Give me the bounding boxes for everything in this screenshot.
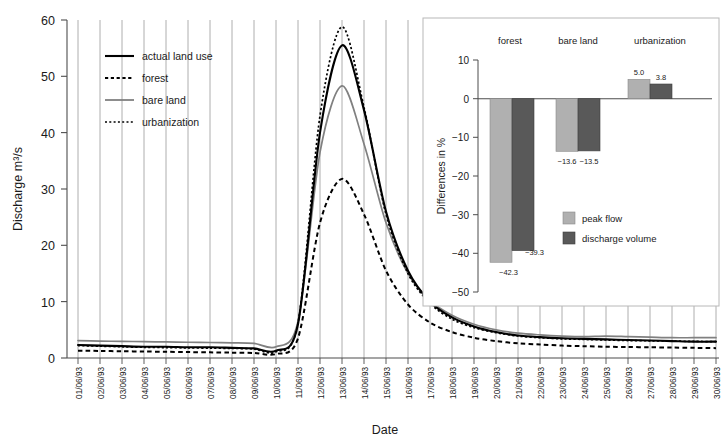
inset-legend-label-discharge-volume: discharge volume <box>582 233 656 244</box>
inset-y-tick-label: −50 <box>452 287 469 298</box>
main-x-tick-label: 01/06/93 <box>75 367 84 399</box>
main-x-tick-label: 12/06/93 <box>317 367 326 399</box>
main-x-tick-label: 22/06/93 <box>537 367 546 399</box>
inset-y-tick-label: −10 <box>452 132 469 143</box>
main-x-tick-label: 08/06/93 <box>229 367 238 399</box>
inset-y-tick-label: 0 <box>463 94 469 105</box>
main-x-tick-label: 21/06/93 <box>515 367 524 399</box>
main-x-tick-label: 25/06/93 <box>603 367 612 399</box>
main-y-tick-label: 30 <box>41 183 55 197</box>
inset-legend-label-peak-flow: peak flow <box>582 213 622 224</box>
bar-urbanization-discharge-volume <box>650 84 672 99</box>
main-x-tick-label: 14/06/93 <box>361 367 370 399</box>
inset-y-tick-label: −40 <box>452 248 469 259</box>
inset-y-axis-title: Differences in % <box>435 138 447 214</box>
bar-value-bare-land-discharge-volume: −13.5 <box>580 157 599 166</box>
main-x-tick-label: 23/06/93 <box>559 367 568 399</box>
legend-label-bare-land: bare land <box>142 94 186 106</box>
main-x-tick-label: 27/06/93 <box>647 367 656 399</box>
bar-bare-land-discharge-volume <box>578 99 600 151</box>
inset-group-label-bare-land: bare land <box>558 35 598 46</box>
bar-value-urbanization-discharge-volume: 3.8 <box>656 73 666 82</box>
main-y-tick-label: 60 <box>41 14 55 28</box>
main-x-tick-label: 09/06/93 <box>251 367 260 399</box>
inset-legend-swatch-peak-flow <box>563 212 575 224</box>
bar-forest-peak-flow <box>490 99 512 263</box>
main-y-axis-title: Discharge m³/s <box>11 147 25 231</box>
main-y-tick-label: 20 <box>41 239 55 253</box>
figure-root: 60 50 40 30 20 10 0 Discharge m³/s 01/06… <box>0 0 723 444</box>
inset-y-tick-label: 10 <box>458 55 470 66</box>
main-x-tick-label: 28/06/93 <box>669 367 678 399</box>
bar-forest-discharge-volume <box>512 99 534 251</box>
bar-urbanization-peak-flow <box>628 79 650 98</box>
bar-value-bare-land-peak-flow: −13.6 <box>558 157 577 166</box>
bar-value-urbanization-peak-flow: 5.0 <box>634 68 644 77</box>
main-y-tick-label: 40 <box>41 127 55 141</box>
bar-bare-land-peak-flow <box>556 99 578 152</box>
main-x-tick-label: 03/06/93 <box>119 367 128 399</box>
main-x-axis-title: Date <box>372 423 398 437</box>
legend-label-forest: forest <box>142 72 168 84</box>
main-x-tick-label: 04/06/93 <box>141 367 150 399</box>
main-x-tick-label: 24/06/93 <box>581 367 590 399</box>
main-x-tick-label: 29/06/93 <box>691 367 700 399</box>
main-x-tick-label: 07/06/93 <box>207 367 216 399</box>
main-x-tick-label: 26/06/93 <box>625 367 634 399</box>
main-x-tick-label: 17/06/93 <box>427 367 436 399</box>
inset-y-tick-label: −20 <box>452 171 469 182</box>
bar-value-forest-discharge-volume: −39.3 <box>525 248 544 257</box>
main-y-tick-label: 10 <box>41 296 55 310</box>
inset-bar-chart: forest bare land urbanization 10 0 −10 −… <box>423 18 719 306</box>
main-x-tick-label: 19/06/93 <box>471 367 480 399</box>
main-x-tick-label: 18/06/93 <box>449 367 458 399</box>
bar-value-forest-peak-flow: −42.3 <box>499 268 518 277</box>
inset-y-tick-label: −30 <box>452 210 469 221</box>
inset-legend-swatch-discharge-volume <box>563 232 575 244</box>
main-x-tick-label: 02/06/93 <box>97 367 106 399</box>
main-x-tick-label: 10/06/93 <box>273 367 282 399</box>
main-y-tick-label: 0 <box>48 352 55 366</box>
chart-svg: 60 50 40 30 20 10 0 Discharge m³/s 01/06… <box>0 0 723 444</box>
legend-label-urbanization: urbanization <box>142 116 199 128</box>
main-x-tick-label: 06/06/93 <box>185 367 194 399</box>
legend-label-actual-land-use: actual land use <box>142 50 213 62</box>
main-x-tick-label: 13/06/93 <box>339 367 348 399</box>
main-x-tick-label: 16/06/93 <box>405 367 414 399</box>
main-y-tick-label: 50 <box>41 70 55 84</box>
main-x-tick-label: 05/06/93 <box>163 367 172 399</box>
main-x-tick-label: 11/06/93 <box>295 367 304 399</box>
main-x-tick-label: 20/06/93 <box>493 367 502 399</box>
inset-group-label-urbanization: urbanization <box>634 35 686 46</box>
main-x-tick-label: 30/06/93 <box>713 367 722 399</box>
inset-group-label-forest: forest <box>498 35 522 46</box>
main-x-tick-label: 15/06/93 <box>383 367 392 399</box>
